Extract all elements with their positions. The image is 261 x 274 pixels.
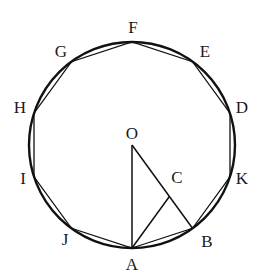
label-i: I (20, 169, 26, 188)
label-e: E (200, 42, 210, 61)
label-b: B (201, 232, 212, 251)
label-g: G (55, 42, 67, 61)
label-j: J (62, 230, 69, 249)
label-d: D (236, 98, 248, 117)
decagon-diagram: O C ABKDEFGHIJ (0, 0, 261, 274)
segment-ob (132, 145, 193, 228)
label-a: A (126, 255, 139, 274)
label-c: C (171, 168, 182, 187)
label-h: H (14, 98, 26, 117)
label-f: F (128, 18, 137, 37)
label-o: O (126, 124, 138, 143)
label-k: K (236, 169, 249, 188)
segment-ac (132, 197, 169, 249)
